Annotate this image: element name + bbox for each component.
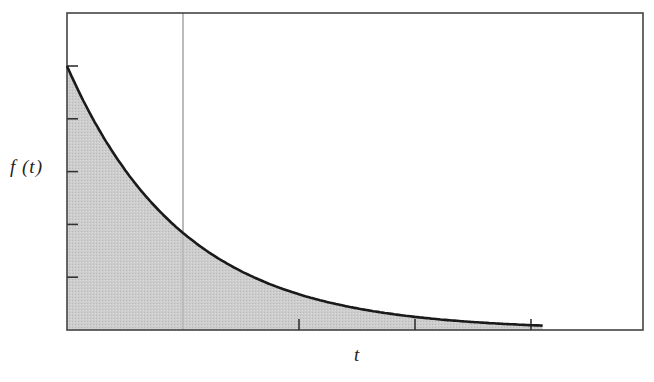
exponential-decay-chart [0,0,654,382]
y-axis-label: f (t) [10,156,43,178]
x-axis-label: t [354,344,359,366]
area-under-curve [67,66,543,330]
